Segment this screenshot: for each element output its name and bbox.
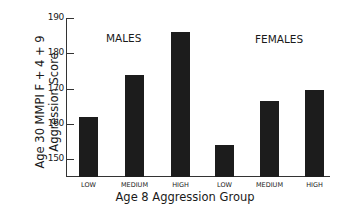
y-tick-label: 170	[40, 83, 64, 93]
y-tick-label: 150	[40, 153, 64, 163]
bar-males-high	[171, 32, 190, 177]
group-label-males: MALES	[106, 32, 141, 44]
y-tick-label: 180	[40, 47, 64, 57]
y-tick-label: 160	[40, 118, 64, 128]
y-tick	[66, 124, 74, 125]
x-tick-label: LOW	[69, 181, 109, 189]
bar-females-low	[215, 145, 234, 177]
y-tick	[66, 53, 74, 54]
y-tick	[66, 159, 74, 160]
bar-females-medium	[260, 101, 279, 177]
y-tick	[66, 18, 74, 19]
bar-males-low	[79, 117, 98, 177]
x-tick-label: MEDIUM	[115, 181, 155, 189]
bar-females-high	[305, 90, 324, 177]
group-label-females: FEMALES	[255, 33, 303, 45]
x-tick-label: HIGH	[161, 181, 201, 189]
y-tick-label: 190	[40, 12, 64, 22]
x-axis-line	[66, 176, 330, 177]
x-tick-label: LOW	[205, 181, 245, 189]
x-tick-label: HIGH	[295, 181, 335, 189]
y-tick	[66, 89, 74, 90]
bar-males-medium	[125, 75, 144, 177]
x-axis-label: Age 8 Aggression Group	[60, 190, 310, 204]
y-axis-line	[66, 18, 67, 177]
x-tick-label: MEDIUM	[250, 181, 290, 189]
